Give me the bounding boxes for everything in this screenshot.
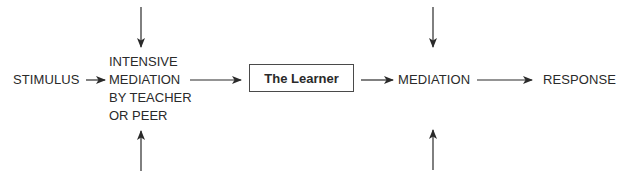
learner-node: The Learner [249,64,354,92]
response-node: RESPONSE [543,71,616,89]
intensive-mediation-node: INTENSIVE MEDIATION BY TEACHER OR PEER [109,53,192,125]
intensive-mediation-line: BY TEACHER [109,89,192,107]
intensive-mediation-line: OR PEER [109,107,192,125]
mediation-node: MEDIATION [398,71,470,89]
stimulus-node: STIMULUS [13,71,80,89]
intensive-mediation-line: INTENSIVE [109,53,192,71]
learner-label: The Learner [264,71,338,86]
intensive-mediation-line: MEDIATION [109,71,192,89]
